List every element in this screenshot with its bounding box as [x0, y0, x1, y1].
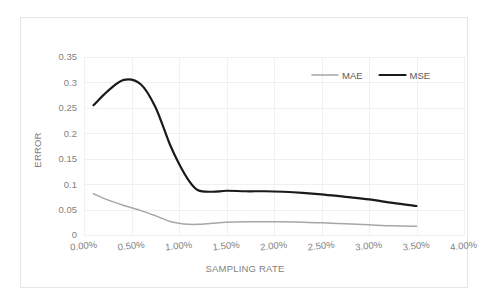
y-axis-tick-label: 0.05 [59, 204, 78, 215]
y-axis-tick-label: 0.15 [59, 153, 78, 164]
line-chart[interactable]: 00.050.10.150.20.250.30.35 0.00%0.50%1.0… [0, 0, 489, 304]
y-axis-tick-label: 0.3 [64, 77, 77, 88]
x-axis-tick-label: 0.00% [70, 239, 98, 253]
x-axis-tick-label: 3.50% [402, 239, 430, 253]
x-axis-tick-label: 4.00% [450, 239, 478, 253]
y-axis-title: ERROR [32, 132, 43, 167]
x-axis-title: SAMPLING RATE [206, 263, 285, 274]
y-axis-tick-label: 0.1 [64, 179, 77, 190]
x-axis-tick-label: 2.50% [307, 239, 335, 253]
chart-legend[interactable]: MAEMSE [312, 70, 430, 81]
y-axis-tick-labels: 00.050.10.150.20.250.30.35 [59, 51, 78, 240]
x-axis-tick-label: 2.00% [260, 239, 288, 253]
y-axis-tick-label: 0.2 [64, 128, 77, 139]
y-axis-tick-label: 0.35 [59, 51, 78, 62]
x-axis-tick-labels: 0.00%0.50%1.00%1.50%2.00%2.50%3.00%3.50%… [70, 239, 478, 253]
legend-label-mse[interactable]: MSE [410, 70, 431, 81]
y-axis-tick-label: 0 [72, 229, 77, 240]
series-line-mse[interactable] [94, 80, 417, 207]
x-axis-tick-label: 1.00% [165, 239, 193, 253]
chart-figure: 00.050.10.150.20.250.30.35 0.00%0.50%1.0… [0, 0, 489, 304]
y-axis-tick-label: 0.25 [59, 102, 78, 113]
legend-label-mae[interactable]: MAE [342, 70, 363, 81]
data-series-group [94, 80, 417, 227]
x-axis-tick-label: 0.50% [117, 239, 145, 253]
x-axis-tick-label: 1.50% [212, 239, 240, 253]
x-axis-tick-label: 3.00% [355, 239, 383, 253]
